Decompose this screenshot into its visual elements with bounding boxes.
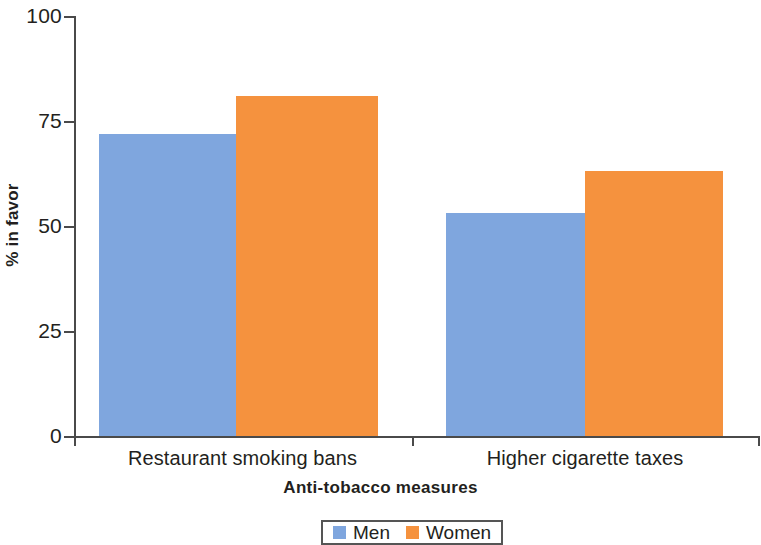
- bar-higher-cigarette-taxes-men: [446, 213, 585, 436]
- y-axis-tick-100: [64, 16, 75, 18]
- y-axis-title: % in favor: [3, 150, 23, 300]
- y-axis-tick-label-0-wrap: 0: [0, 425, 62, 446]
- x-axis-group-label-higher-cigarette-taxes: Higher cigarette taxes: [476, 446, 694, 470]
- x-axis-title: Anti-tobacco measures: [0, 478, 761, 498]
- legend-item-men: Men: [333, 523, 390, 542]
- y-axis-tick-label-25: 25: [6, 320, 62, 341]
- x-axis-tick-right: [758, 436, 760, 446]
- y-axis-tick-label-100: 100: [6, 5, 62, 26]
- bar-restaurant-smoking-bans-women: [236, 96, 378, 436]
- legend-swatch-women-icon: [406, 526, 419, 539]
- legend-label-men: Men: [353, 523, 390, 542]
- x-axis-tick-left: [74, 436, 76, 446]
- legend-item-women: Women: [406, 523, 491, 542]
- legend-swatch-men-icon: [333, 526, 346, 539]
- x-axis-group-label-restaurant-smoking-bans: Restaurant smoking bans: [128, 446, 348, 470]
- x-axis-tick-middle: [412, 436, 414, 446]
- y-axis-tick-label-25-wrap: 25: [0, 320, 62, 341]
- bar-restaurant-smoking-bans-men: [99, 134, 236, 436]
- y-axis-tick-label-100-wrap: 100: [0, 5, 62, 26]
- y-axis-tick-50: [64, 226, 75, 228]
- bar-chart: 100 75 50 25 0 % in favor Restaurant smo…: [0, 0, 761, 545]
- y-axis-tick-25: [64, 331, 75, 333]
- y-axis-tick-label-75: 75: [6, 110, 62, 131]
- legend: Men Women: [321, 520, 503, 545]
- y-axis-tick-label-0: 0: [6, 425, 62, 446]
- y-axis-tick-label-75-wrap: 75: [0, 110, 62, 131]
- bar-higher-cigarette-taxes-women: [585, 171, 723, 436]
- x-axis-line: [74, 436, 760, 438]
- y-axis-tick-75: [64, 121, 75, 123]
- legend-label-women: Women: [426, 523, 491, 542]
